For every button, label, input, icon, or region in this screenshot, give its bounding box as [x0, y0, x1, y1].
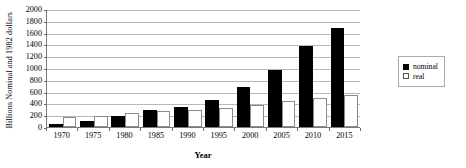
x-tick-label: 2015 [329, 132, 360, 146]
bar-group [235, 10, 266, 127]
legend-label: nominal [413, 63, 438, 71]
x-axis-tick-labels: 1970197519801985199019952000200520102015 [46, 132, 360, 146]
bar-real-2005 [282, 101, 296, 127]
bar-real-2010 [313, 98, 327, 127]
y-axis-title: Billions Nominal and 1982 dollars [0, 0, 18, 140]
y-axis-title-text: Billions Nominal and 1982 dollars [5, 12, 14, 129]
y-tick-label: 0 [38, 124, 42, 132]
x-tick-mark [360, 128, 361, 131]
y-tick-label: 1800 [26, 18, 42, 26]
y-tick-label: 400 [30, 100, 42, 108]
bar-nominal-1990 [174, 107, 188, 127]
bar-real-1975 [94, 116, 108, 127]
x-tick-mark [203, 128, 204, 131]
x-tick-mark [109, 128, 110, 131]
bar-nominal-2000 [237, 87, 251, 127]
x-tick-label: 2000 [234, 132, 265, 146]
x-tick-label: 2005 [266, 132, 297, 146]
legend-label: real [413, 73, 424, 81]
x-axis-title: Year [46, 150, 360, 160]
bar-nominal-1975 [80, 121, 94, 127]
y-tick-label: 1000 [26, 65, 42, 73]
bar-group [266, 10, 297, 127]
bar-nominal-2005 [268, 70, 282, 127]
bar-nominal-1980 [111, 116, 125, 127]
x-tick-label: 1995 [203, 132, 234, 146]
x-tick-mark [172, 128, 173, 131]
bar-real-1990 [188, 110, 202, 127]
x-tick-mark [266, 128, 267, 131]
bar-real-1980 [125, 113, 139, 127]
bar-group [172, 10, 203, 127]
chart-legend: nominalreal [398, 56, 445, 87]
y-tick-label: 1200 [26, 53, 42, 61]
legend-swatch-real [403, 73, 409, 79]
x-tick-label: 1975 [77, 132, 108, 146]
x-tick-label: 1985 [140, 132, 171, 146]
y-tick-label: 2000 [26, 6, 42, 14]
bar-chart: Billions Nominal and 1982 dollars 020040… [0, 0, 466, 168]
bar-real-1995 [219, 108, 233, 127]
bar-nominal-1985 [143, 110, 157, 127]
bar-group [78, 10, 109, 127]
legend-entry-nominal: nominal [403, 63, 438, 71]
legend-entry-real: real [403, 73, 438, 81]
bar-group [297, 10, 328, 127]
bar-real-1970 [63, 117, 77, 127]
bar-nominal-2015 [331, 28, 345, 127]
bar-nominal-1970 [49, 124, 63, 127]
x-tick-label: 1970 [46, 132, 77, 146]
x-tick-mark [77, 128, 78, 131]
x-tick-mark [297, 128, 298, 131]
y-axis-tick-labels: 0200400600800100012001400160018002000 [18, 10, 44, 128]
y-tick-label: 200 [30, 112, 42, 120]
plot-area [46, 10, 360, 128]
bar-real-1985 [157, 111, 171, 127]
bar-group [329, 10, 360, 127]
y-tick-label: 800 [30, 77, 42, 85]
bar-nominal-2010 [299, 46, 313, 127]
y-tick-label: 1400 [26, 41, 42, 49]
x-tick-label: 2010 [297, 132, 328, 146]
bar-real-2000 [250, 105, 264, 127]
y-tick-label: 1600 [26, 29, 42, 37]
y-tick-label: 600 [30, 88, 42, 96]
bar-real-2015 [344, 95, 358, 127]
x-tick-label: 1990 [172, 132, 203, 146]
x-tick-label: 1980 [109, 132, 140, 146]
bar-group [110, 10, 141, 127]
x-tick-mark [46, 128, 47, 131]
bar-group [47, 10, 78, 127]
x-tick-mark [140, 128, 141, 131]
bars-layer [47, 10, 360, 127]
x-tick-mark [329, 128, 330, 131]
x-tick-mark [234, 128, 235, 131]
bar-group [141, 10, 172, 127]
legend-swatch-nominal [403, 64, 409, 70]
bar-group [203, 10, 234, 127]
bar-nominal-1995 [205, 100, 219, 127]
